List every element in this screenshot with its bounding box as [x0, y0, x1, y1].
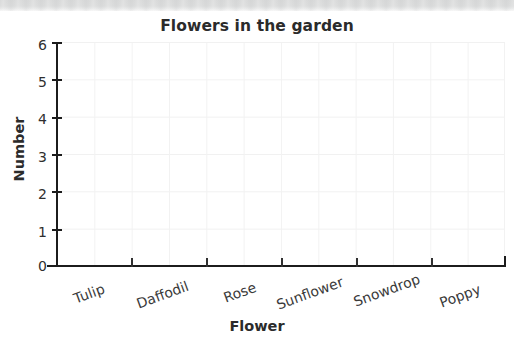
y-tick-mark-6: [52, 42, 62, 44]
x-category-label-sunflower: Sunflower: [274, 274, 345, 313]
x-tick-mark-1: [131, 258, 133, 267]
y-axis-title: Number: [11, 109, 27, 189]
x-tick-mark-2: [206, 258, 208, 267]
x-tick-mark-6: [504, 256, 506, 267]
x-axis-title: Flower: [0, 318, 514, 334]
y-tick-mark-4: [52, 117, 62, 119]
y-tick-label-2: 2: [29, 187, 47, 201]
x-axis-line: [47, 265, 506, 267]
x-category-label-daffodil: Daffodil: [134, 278, 190, 312]
x-category-label-rose: Rose: [221, 279, 258, 306]
x-category-label-tulip: Tulip: [71, 281, 107, 307]
y-tick-label-5: 5: [29, 75, 47, 89]
y-tick-mark-3: [52, 154, 62, 156]
x-category-label-poppy: Poppy: [437, 281, 482, 311]
plot-area-grid: [57, 42, 505, 266]
scanner-artifact-band: [0, 0, 514, 11]
y-tick-label-1: 1: [29, 225, 47, 239]
y-tick-mark-1: [52, 229, 62, 231]
x-tick-mark-4: [356, 258, 358, 267]
y-tick-label-0: 0: [29, 259, 47, 273]
x-category-label-snowdrop: Snowdrop: [351, 271, 422, 310]
x-tick-mark-3: [281, 258, 283, 267]
y-tick-label-6: 6: [29, 38, 47, 52]
y-tick-label-4: 4: [29, 112, 47, 126]
y-tick-label-3: 3: [29, 150, 47, 164]
x-tick-mark-5: [431, 258, 433, 267]
chart-title: Flowers in the garden: [0, 17, 514, 35]
x-tick-mark-0: [56, 256, 58, 267]
y-tick-mark-2: [52, 191, 62, 193]
chart-screenshot: Flowers in the garden 6 5 4 3 2 1 0 Tuli…: [0, 0, 514, 341]
y-tick-mark-5: [52, 79, 62, 81]
